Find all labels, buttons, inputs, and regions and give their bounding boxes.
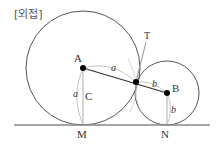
label-b-top: b	[152, 78, 157, 89]
point-contact	[133, 79, 139, 85]
label-c: C	[85, 90, 92, 102]
label-a-top: a	[111, 62, 116, 73]
point-a	[80, 65, 86, 71]
label-a-left: a	[73, 88, 78, 99]
label-t: T	[144, 30, 150, 41]
point-b	[164, 90, 170, 96]
label-m: M	[77, 128, 87, 140]
externally-tangent-circles-diagram: [외접] A B C M N T a a b b	[0, 0, 219, 152]
arc-b-right	[167, 93, 171, 125]
diagram-title: [외접]	[14, 8, 43, 21]
construction-arc-1	[128, 58, 136, 112]
arc-a-top	[83, 66, 136, 82]
label-a-point: A	[74, 52, 82, 64]
label-b-point: B	[172, 82, 179, 94]
label-n: N	[161, 128, 169, 140]
label-b-right: b	[171, 104, 176, 115]
